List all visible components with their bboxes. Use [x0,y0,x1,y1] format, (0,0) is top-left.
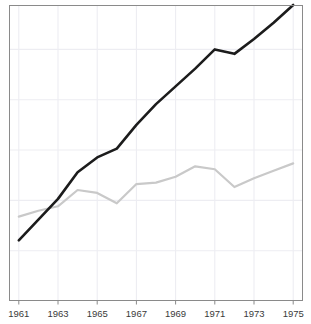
x-axis-ticks: 19611963196519671969197119731975 [8,301,304,319]
x-tick-label: 1961 [8,308,29,319]
x-tick-label: 1973 [243,308,264,319]
line-chart: 19611963196519671969197119731975 [0,0,311,324]
x-tick-label: 1975 [283,308,304,319]
chart-canvas: 19611963196519671969197119731975 [0,0,311,324]
x-tick-label: 1967 [126,308,147,319]
x-tick-label: 1969 [165,308,186,319]
x-tick-label: 1965 [87,308,108,319]
x-tick-label: 1963 [47,308,68,319]
x-tick-label: 1971 [204,308,225,319]
